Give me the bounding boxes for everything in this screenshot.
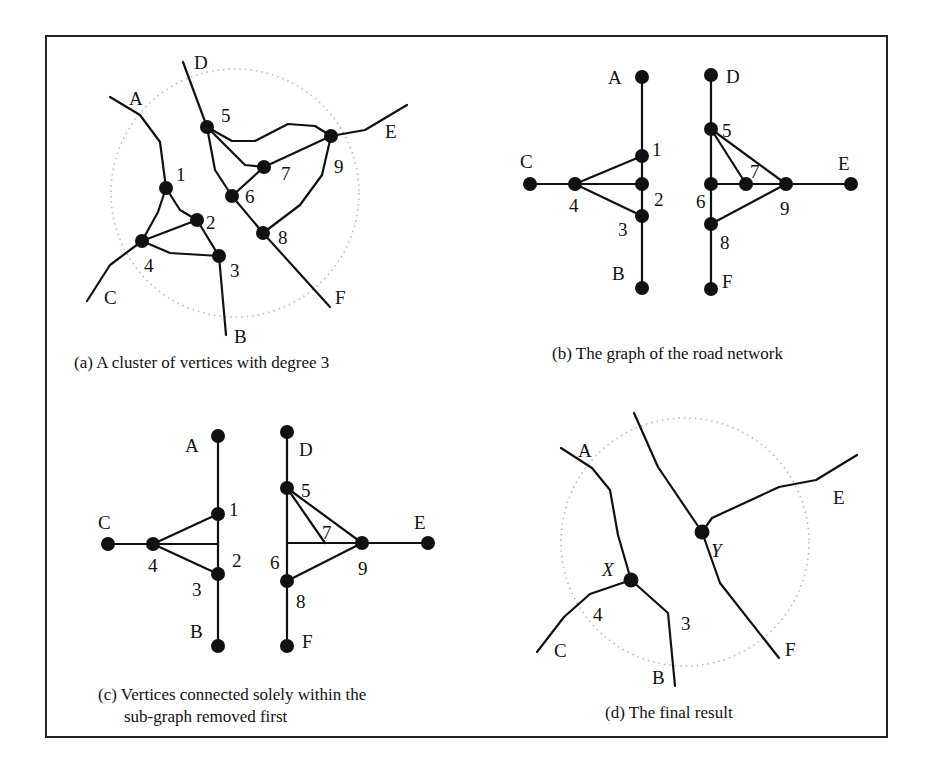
node-6 [225, 189, 239, 203]
node-6 [704, 177, 718, 191]
label-a: A [608, 67, 622, 88]
figure-canvas: A B C D E F 1 2 3 4 5 6 7 8 9 (a) A clus… [0, 0, 932, 772]
label-f: F [722, 271, 733, 292]
label-6: 6 [245, 186, 255, 207]
node-b [211, 639, 225, 653]
node-3 [635, 209, 649, 223]
label-8: 8 [278, 227, 288, 248]
label-c: C [554, 640, 567, 661]
node-3 [212, 249, 226, 263]
road-a [561, 448, 631, 580]
road-d [634, 413, 702, 532]
label-7: 7 [750, 161, 760, 182]
label-e: E [385, 121, 397, 142]
node-3 [211, 567, 225, 581]
edge-5-9 [207, 124, 331, 141]
node-d [704, 68, 718, 82]
edge-4-2 [142, 220, 197, 241]
panel-b: A B C D E F 1 2 3 4 5 6 7 8 9 (b) The gr… [520, 66, 858, 363]
label-d: D [299, 439, 313, 460]
label-4: 4 [144, 255, 154, 276]
label-3: 3 [681, 613, 691, 634]
label-9: 9 [358, 558, 368, 579]
label-f: F [302, 631, 313, 652]
label-f: F [335, 287, 346, 308]
edge-4-3 [142, 241, 219, 256]
label-4: 4 [148, 555, 158, 576]
node-1 [159, 181, 173, 195]
node-8 [256, 226, 270, 240]
label-c: C [520, 151, 533, 172]
label-b: B [234, 326, 247, 347]
label-d: D [726, 66, 740, 87]
label-3: 3 [192, 579, 202, 600]
edge-5-6 [207, 127, 232, 196]
label-a: A [578, 440, 592, 461]
label-2: 2 [654, 189, 664, 210]
label-d: D [194, 52, 208, 73]
label-4: 4 [569, 195, 579, 216]
edge-4-3 [575, 184, 642, 216]
panel-d: A B C E F 4 3 X Y (d) The final result [537, 413, 857, 722]
label-2: 2 [206, 212, 216, 233]
label-9: 9 [334, 156, 344, 177]
node-b [635, 281, 649, 295]
node-x [624, 573, 639, 588]
label-7: 7 [281, 163, 291, 184]
node-f [704, 282, 718, 296]
label-b: B [612, 263, 625, 284]
caption-c-line2: sub-graph removed first [124, 707, 288, 726]
edge-4-1 [575, 156, 642, 184]
node-y [695, 525, 710, 540]
label-b: B [652, 667, 665, 688]
node-1 [635, 149, 649, 163]
label-e: E [833, 487, 845, 508]
edge-7-9 [264, 136, 331, 167]
node-4 [568, 177, 582, 191]
label-6: 6 [696, 191, 706, 212]
node-a [211, 429, 225, 443]
node-9 [779, 177, 793, 191]
caption-c-line1: (c) Vertices connected solely within the [98, 685, 366, 704]
label-b: B [190, 621, 203, 642]
caption-b: (b) The graph of the road network [552, 344, 783, 363]
label-1: 1 [229, 499, 239, 520]
node-5 [280, 481, 294, 495]
label-6: 6 [270, 552, 280, 573]
node-e [844, 177, 858, 191]
label-8: 8 [720, 232, 730, 253]
label-3: 3 [230, 260, 240, 281]
label-5: 5 [301, 480, 311, 501]
node-c [523, 177, 537, 191]
road-b [219, 256, 226, 335]
label-f: F [785, 639, 796, 660]
label-e: E [414, 512, 426, 533]
label-3: 3 [618, 219, 628, 240]
node-9 [324, 129, 338, 143]
label-2: 2 [232, 550, 242, 571]
caption-a: (a) A cluster of vertices with degree 3 [74, 353, 329, 372]
node-7 [257, 160, 271, 174]
label-7: 7 [322, 522, 332, 543]
edge-8-9 [287, 543, 362, 581]
label-4: 4 [593, 604, 603, 625]
node-d [280, 425, 294, 439]
label-5: 5 [221, 105, 231, 126]
label-a: A [129, 88, 143, 109]
node-9 [355, 536, 369, 550]
road-f [232, 196, 330, 307]
node-4 [135, 234, 149, 248]
label-8: 8 [296, 591, 306, 612]
caption-d: (d) The final result [605, 703, 733, 722]
node-4 [146, 537, 160, 551]
node-8 [280, 574, 294, 588]
node-5 [704, 122, 718, 136]
node-f [280, 639, 294, 653]
node-e [421, 536, 435, 550]
node-a [635, 70, 649, 84]
node-2 [190, 213, 204, 227]
label-c: C [98, 512, 111, 533]
node-8 [704, 217, 718, 231]
panel-c: A B C D E F 1 2 3 4 5 6 7 8 9 (c) Vertic… [98, 425, 435, 726]
label-y: Y [711, 540, 724, 561]
